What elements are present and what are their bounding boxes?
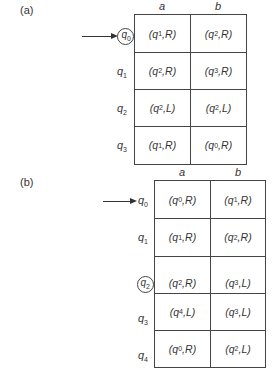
figure-b-cell-q1-a: (q1,R): [155, 218, 210, 256]
figure-b-transition-table: (q0,R) (q1,R) (q1,R) (q2,R) (q2,R) (q3,L…: [154, 180, 266, 368]
figure-b-cell-q2-a: (q2,R): [155, 256, 210, 293]
figure-a-cell-q0-b: (q2,R): [191, 15, 246, 52]
figure-a-label: (a): [20, 4, 33, 16]
figure-a-cell-q0-a: (q1,R): [135, 15, 190, 52]
figure-a-cell-q2-b: (q2,L): [191, 89, 246, 126]
figure-b-cell-q3-a: (q4,L): [155, 293, 210, 330]
figure-b-cell-q4-a: (q0,R): [155, 330, 210, 367]
figure-b-column-b-header: b: [210, 166, 266, 178]
figure-a-column-b-header: b: [190, 0, 246, 12]
figure-a-cell-q3-b: (q0,R): [191, 126, 246, 164]
figure-a-state-q2: q2: [105, 102, 127, 116]
figure-a-column-a-header: a: [134, 0, 190, 12]
figure-b-state-q3: q3: [126, 312, 148, 326]
figure-a-transition-table: (q1,R) (q2,R) (q2,R) (q3,R) (q2,L) (q2,L…: [134, 14, 247, 165]
figure-b-state-q1: q1: [126, 231, 148, 245]
figure-b-cell-q0-a: (q0,R): [155, 181, 210, 218]
figure-b-cell-q1-b: (q2,R): [211, 218, 265, 256]
figure-a-state-q0: q0: [109, 29, 131, 42]
figure-b-label: (b): [20, 176, 33, 188]
figure-a-state-q1: q1: [105, 65, 127, 79]
figure-b-state-q0: q0: [126, 194, 148, 208]
figure-b-column-a-header: a: [154, 166, 210, 178]
figure-a-cell-q3-a: (q1,R): [135, 126, 190, 164]
figure-b-state-q2: q2: [128, 277, 150, 290]
figure-a-cell-q1-a: (q2,R): [135, 52, 190, 89]
figure-a-state-q3: q3: [105, 139, 127, 153]
figure-a-start-arrow: [82, 36, 112, 37]
figure-a-cell-q1-b: (q3,R): [191, 52, 246, 89]
figure-b-state-q4: q4: [126, 349, 148, 363]
figure-b-cell-q2-b: (q3,L): [211, 256, 265, 293]
figure-b-cell-q3-b: (q3,L): [211, 293, 265, 330]
figure-b-cell-q0-b: (q1,R): [211, 181, 265, 218]
figure-b-cell-q4-b: (q2,L): [211, 330, 265, 367]
figure-a-cell-q2-a: (q2,L): [135, 89, 190, 126]
